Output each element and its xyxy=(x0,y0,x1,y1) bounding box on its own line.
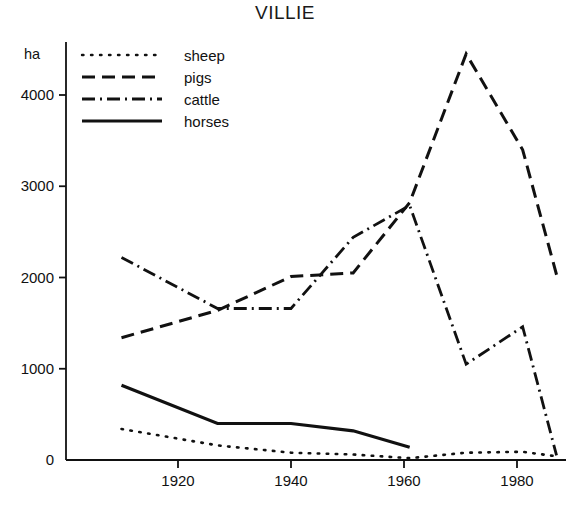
chart-axes xyxy=(59,42,566,468)
chart-series xyxy=(122,54,557,458)
plot-area xyxy=(0,0,570,505)
series-line-sheep xyxy=(122,429,557,458)
series-line-horses xyxy=(122,385,410,447)
chart-figure: VILLIE ha 01000200030004000 192019401960… xyxy=(0,0,570,505)
series-line-pigs xyxy=(122,54,557,338)
series-line-cattle xyxy=(122,205,557,455)
